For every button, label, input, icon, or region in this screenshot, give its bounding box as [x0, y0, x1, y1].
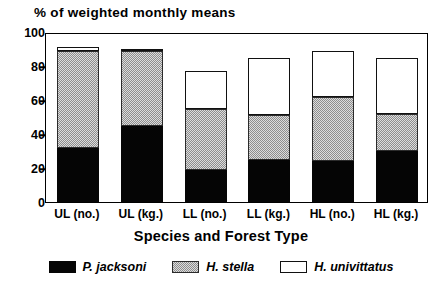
- x-tick-label: LL (no.): [172, 207, 238, 221]
- bar-segment: [57, 51, 99, 148]
- x-tick-label: HL (no.): [299, 207, 365, 221]
- bar-stack: [376, 58, 418, 202]
- bar-stack: [185, 71, 227, 202]
- bar-segment: [57, 148, 99, 202]
- legend: P. jacksoniH. stellaH. univittatus: [0, 260, 442, 274]
- x-tick-label: UL (no.): [44, 207, 110, 221]
- x-tick-label: LL (kg.): [235, 207, 301, 221]
- bar-stack: [121, 49, 163, 202]
- stacked-bar-chart: % of weighted monthly means 100806040200…: [0, 0, 442, 291]
- x-axis-title: Species and Forest Type: [0, 228, 442, 244]
- y-tick-label: 100: [9, 26, 45, 40]
- bar-segment: [248, 160, 290, 203]
- y-tick-label: 0: [9, 196, 45, 210]
- bar-stack: [57, 47, 99, 202]
- bar-segment: [376, 114, 418, 151]
- bar-segment: [185, 170, 227, 202]
- legend-item: H. univittatus: [280, 260, 393, 274]
- bar-segment: [185, 71, 227, 108]
- bar-segment: [185, 109, 227, 170]
- bar-stack: [248, 58, 290, 202]
- white-swatch: [280, 261, 307, 273]
- legend-label: H. univittatus: [314, 260, 393, 274]
- x-tick-label: HL (kg.): [363, 207, 429, 221]
- bar-segment: [376, 151, 418, 202]
- chart-title: % of weighted monthly means: [34, 5, 236, 20]
- bar-segment: [121, 51, 163, 126]
- y-axis: 100806040200: [0, 0, 45, 236]
- plot-area: [45, 33, 428, 203]
- gray-hatch-swatch: [172, 261, 199, 273]
- bar-segment: [376, 58, 418, 114]
- bar-stack: [312, 51, 354, 202]
- legend-label: H. stella: [206, 260, 254, 274]
- legend-item: P. jacksoni: [49, 260, 147, 274]
- legend-item: H. stella: [172, 260, 254, 274]
- x-tick-label: UL (kg.): [108, 207, 174, 221]
- bar-segment: [312, 97, 354, 162]
- bar-segment: [312, 51, 354, 97]
- black-swatch: [49, 261, 76, 273]
- bar-segment: [121, 126, 163, 203]
- legend-label: P. jacksoni: [83, 260, 147, 274]
- bar-segment: [248, 58, 290, 116]
- bars-container: [46, 34, 427, 202]
- bar-segment: [248, 115, 290, 159]
- bar-segment: [312, 161, 354, 202]
